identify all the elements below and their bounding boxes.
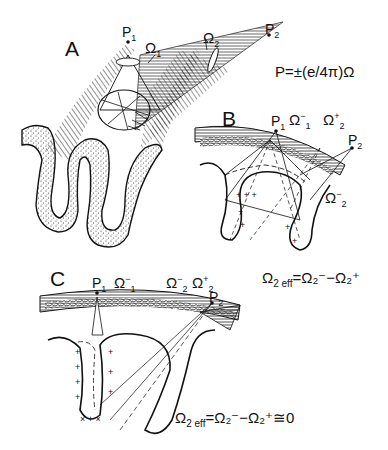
point-name: P <box>209 289 218 305</box>
stippled-gyri <box>22 125 162 247</box>
brain-surface-b <box>200 163 330 250</box>
eq-lhs-sub: 2 eff <box>186 418 205 429</box>
point-sub: 1 <box>101 284 106 294</box>
angle-sup: − <box>125 274 130 284</box>
svg-text:+: + <box>240 220 245 230</box>
angle-symbol: Ω <box>325 189 336 206</box>
point-sub: 1 <box>280 122 285 132</box>
omega1-cap <box>116 58 140 66</box>
formula-potential: P=±(e/4π)Ω <box>275 64 354 79</box>
angle-label-omega2-minus-b: Ω−2 <box>325 190 347 209</box>
svg-text:+: + <box>75 362 80 372</box>
angle-sub: 1 <box>305 121 310 131</box>
angle-sup: − <box>177 274 182 284</box>
point-label-p2-c: P2 <box>209 290 223 308</box>
svg-text:+ + +: + + + <box>236 190 257 200</box>
angle-sub: 2 <box>214 39 219 49</box>
angle-label-omega1-minus-b: Ω−1 <box>289 112 311 131</box>
point-name: P <box>265 21 274 37</box>
angle-sup: + <box>334 111 339 121</box>
point-name: P <box>271 113 280 129</box>
eq-lhs-sub: 2 eff <box>273 278 292 289</box>
angle-symbol: Ω <box>114 274 125 291</box>
angle-sup: − <box>300 111 305 121</box>
svg-text:× + ×: × + × <box>80 414 101 424</box>
angle-label-omega2-plus-b: Ω+2 <box>323 112 345 131</box>
point-name: P <box>348 132 357 148</box>
angle-symbol: Ω <box>203 29 214 46</box>
svg-text:+: + <box>75 347 80 357</box>
point-sub: 2 <box>218 298 223 308</box>
angle-label-omega2-minus-c: Ω−2 <box>166 275 188 294</box>
svg-text:+: + <box>285 222 290 232</box>
point-label-p1-c: P1 <box>92 276 106 294</box>
point-sub: 2 <box>274 30 279 40</box>
eq-rhs: =Ω₂⁻−Ω₂⁺≅0 <box>206 409 295 426</box>
angle-sub: 1 <box>130 284 135 294</box>
point-label-p2-a: P2 <box>265 22 279 40</box>
svg-text:+: + <box>108 347 113 357</box>
svg-text:+: + <box>75 377 80 387</box>
panel-label-c: C <box>50 268 65 289</box>
eq-rhs: =Ω₂⁻−Ω₂⁺ <box>293 269 361 286</box>
svg-text:+: + <box>108 367 113 377</box>
svg-text:+: + <box>108 387 113 397</box>
point-sub: 1 <box>131 33 136 43</box>
angle-symbol: Ω <box>166 274 177 291</box>
angle-symbol: Ω <box>192 274 203 291</box>
point-label-p2-b: P2 <box>348 133 362 151</box>
point-label-p1-b: P1 <box>271 114 285 132</box>
eq-lhs: Ω <box>262 269 273 286</box>
angle-symbol: Ω <box>323 111 334 128</box>
angle-label-omega2-a: Ω2 <box>203 30 219 49</box>
angle-sub: 2 <box>182 284 187 294</box>
angle-label-omega1-minus-c: Ω−1 <box>114 275 136 294</box>
angle-sup: − <box>336 189 341 199</box>
angle-sub: 2 <box>339 121 344 131</box>
angle-sub: 2 <box>341 199 346 209</box>
point-label-p1-a: P1 <box>122 25 136 43</box>
svg-text:+: + <box>292 236 297 246</box>
angle-sub: 1 <box>156 49 161 59</box>
panel-label-a: A <box>65 38 79 59</box>
eq-lhs: Ω <box>175 409 186 426</box>
point-name: P <box>92 275 101 291</box>
equation-omega2-eff-b: Ω2 eff=Ω₂⁻−Ω₂⁺ <box>262 270 360 289</box>
angle-symbol: Ω <box>145 39 156 56</box>
angle-label-omega1-a: Ω1 <box>145 40 161 59</box>
svg-text:+: + <box>238 207 243 217</box>
equation-omega2-eff-c: Ω2 eff=Ω₂⁻−Ω₂⁺≅0 <box>175 410 294 429</box>
panel-label-b: B <box>222 108 236 129</box>
point-sub: 2 <box>357 141 362 151</box>
angle-sup: + <box>203 274 208 284</box>
point-name: P <box>122 24 131 40</box>
angle-symbol: Ω <box>289 111 300 128</box>
svg-text:+: + <box>75 392 80 402</box>
